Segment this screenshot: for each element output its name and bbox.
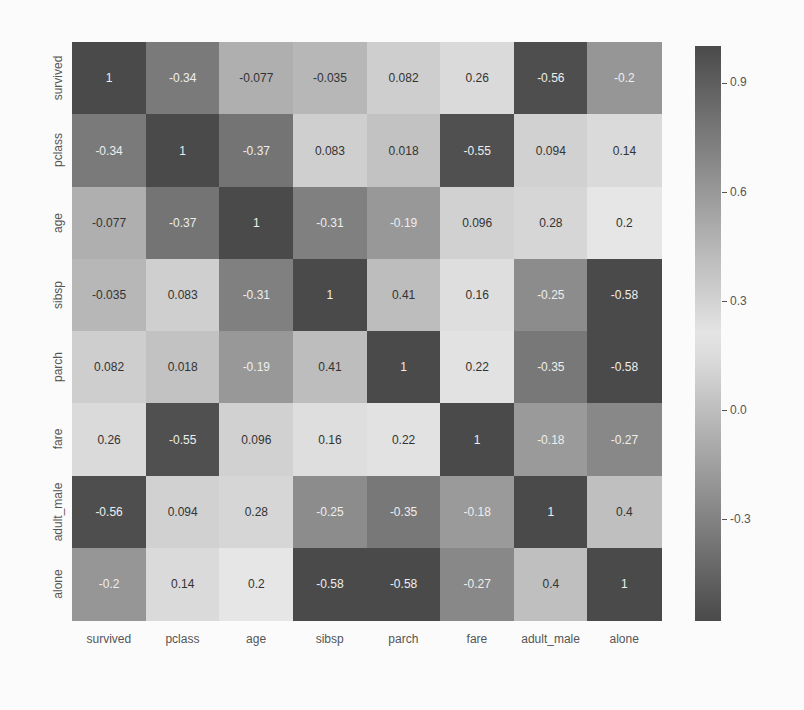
heatmap-cell: -0.34: [72, 114, 146, 187]
heatmap-cell: 1: [587, 548, 661, 621]
correlation-heatmap: 1-0.34-0.077-0.0350.0820.26-0.56-0.2-0.3…: [72, 42, 661, 620]
heatmap-cell: 0.16: [293, 403, 367, 476]
heatmap-cell: -0.56: [72, 476, 146, 549]
heatmap-cell: -0.58: [587, 259, 661, 332]
heatmap-cell: -0.19: [367, 187, 441, 260]
heatmap-cell: 1: [146, 114, 220, 187]
x-tick-label: survived: [86, 632, 131, 646]
colorbar-tick-label: -0.3: [722, 512, 751, 526]
y-tick-label: parch: [51, 352, 65, 382]
heatmap-cell: 0.4: [587, 476, 661, 549]
heatmap-cell: -0.58: [293, 548, 367, 621]
heatmap-cell: 0.096: [219, 403, 293, 476]
y-tick-label: survived: [51, 56, 65, 101]
heatmap-cell: -0.18: [440, 476, 514, 549]
heatmap-cell: -0.035: [293, 42, 367, 115]
heatmap-cell: 1: [514, 476, 588, 549]
heatmap-cell: 0.096: [440, 187, 514, 260]
colorbar-tick-label: 0.6: [722, 185, 747, 199]
colorbar-tick-label: 0.3: [722, 294, 747, 308]
heatmap-cell: -0.37: [146, 187, 220, 260]
x-tick-label: pclass: [165, 632, 199, 646]
heatmap-cell: -0.58: [587, 331, 661, 404]
y-tick-label: alone: [51, 569, 65, 598]
heatmap-cell: 1: [72, 42, 146, 115]
heatmap-cell: 0.28: [514, 187, 588, 260]
heatmap-cell: 0.41: [367, 259, 441, 332]
heatmap-cell: 0.28: [219, 476, 293, 549]
heatmap-cell: 0.082: [72, 331, 146, 404]
heatmap-cell: 1: [367, 331, 441, 404]
heatmap-cell: -0.37: [219, 114, 293, 187]
colorbar-tick-label: 0.0: [722, 403, 747, 417]
heatmap-cell: 0.018: [367, 114, 441, 187]
heatmap-cell: -0.27: [587, 403, 661, 476]
heatmap-cell: -0.2: [587, 42, 661, 115]
heatmap-cell: 0.2: [219, 548, 293, 621]
heatmap-cell: -0.56: [514, 42, 588, 115]
heatmap-cell: -0.31: [219, 259, 293, 332]
heatmap-cell: 1: [440, 403, 514, 476]
y-tick-label: adult_male: [51, 482, 65, 541]
heatmap-cell: -0.2: [72, 548, 146, 621]
heatmap-cell: 1: [293, 259, 367, 332]
heatmap-cell: -0.19: [219, 331, 293, 404]
heatmap-cell: 1: [219, 187, 293, 260]
heatmap-cell: 0.083: [146, 259, 220, 332]
heatmap-cell: 0.26: [440, 42, 514, 115]
heatmap-cell: 0.41: [293, 331, 367, 404]
heatmap-cell: 0.22: [367, 403, 441, 476]
y-tick-label: age: [51, 213, 65, 233]
heatmap-cell: -0.55: [440, 114, 514, 187]
x-tick-label: age: [246, 632, 266, 646]
heatmap-cell: -0.27: [440, 548, 514, 621]
heatmap-cell: 0.16: [440, 259, 514, 332]
y-tick-label: sibsp: [51, 281, 65, 309]
heatmap-cell: -0.34: [146, 42, 220, 115]
heatmap-cell: -0.077: [72, 187, 146, 260]
colorbar: [695, 46, 721, 621]
heatmap-cell: 0.14: [146, 548, 220, 621]
heatmap-cell: -0.35: [367, 476, 441, 549]
heatmap-cell: -0.077: [219, 42, 293, 115]
heatmap-cell: -0.035: [72, 259, 146, 332]
heatmap-cell: 0.094: [514, 114, 588, 187]
y-tick-label: pclass: [51, 133, 65, 167]
heatmap-cell: 0.083: [293, 114, 367, 187]
heatmap-cell: 0.018: [146, 331, 220, 404]
colorbar-tick-label: 0.9: [722, 75, 747, 89]
heatmap-cell: 0.26: [72, 403, 146, 476]
heatmap-cell: 0.14: [587, 114, 661, 187]
x-tick-label: adult_male: [521, 632, 580, 646]
heatmap-cell: 0.082: [367, 42, 441, 115]
heatmap-cell: -0.58: [367, 548, 441, 621]
heatmap-cell: -0.55: [146, 403, 220, 476]
heatmap-cell: 0.22: [440, 331, 514, 404]
heatmap-cell: -0.35: [514, 331, 588, 404]
heatmap-cell: -0.18: [514, 403, 588, 476]
heatmap-cell: -0.31: [293, 187, 367, 260]
x-tick-label: parch: [388, 632, 418, 646]
heatmap-cell: 0.094: [146, 476, 220, 549]
heatmap-cell: 0.2: [587, 187, 661, 260]
heatmap-cell: -0.25: [293, 476, 367, 549]
x-tick-label: sibsp: [316, 632, 344, 646]
y-tick-label: fare: [51, 429, 65, 450]
x-tick-label: alone: [610, 632, 639, 646]
heatmap-cell: 0.4: [514, 548, 588, 621]
x-tick-label: fare: [467, 632, 488, 646]
heatmap-cell: -0.25: [514, 259, 588, 332]
